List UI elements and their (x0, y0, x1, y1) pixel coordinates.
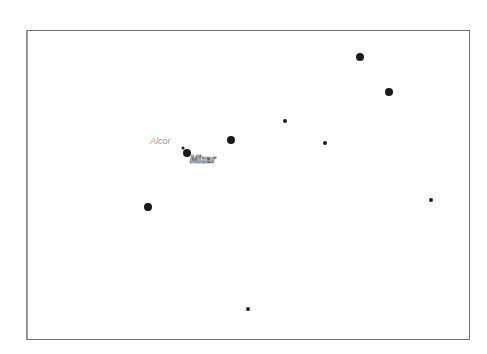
alcor-label: Alcor (150, 137, 171, 146)
chart-frame (26, 30, 470, 340)
star-1 (356, 53, 364, 61)
star-chart: Alcor Mizar (0, 0, 487, 354)
star-6 (144, 203, 152, 211)
star-3 (283, 119, 287, 123)
star-4 (323, 141, 327, 145)
star-2 (385, 88, 393, 96)
mizar-label: Mizar (190, 155, 216, 165)
star-5 (227, 136, 235, 144)
star-8 (246, 307, 250, 311)
star-7 (429, 198, 433, 202)
